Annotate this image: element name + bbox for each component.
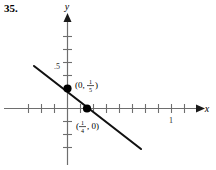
point-marker-x-intercept — [83, 104, 91, 112]
point-label-x-intercept-numerator: 1 — [81, 120, 84, 126]
exercise-figure: 35. — [0, 0, 216, 170]
point-label-x-intercept-denominator: 4 — [81, 128, 84, 134]
x-axis-arrow-icon — [196, 105, 205, 113]
point-marker-y-intercept — [63, 84, 71, 92]
point-label-x-intercept-open: ( — [76, 121, 79, 131]
point-label-y-intercept-numerator: 1 — [89, 79, 92, 85]
y-axis-arrow-icon — [64, 13, 72, 22]
point-label-x-intercept: ( 1 4 , 0) — [76, 120, 99, 134]
y-axis-label: y — [64, 1, 70, 12]
y-tick-label-half: .5 — [54, 62, 60, 71]
coordinate-plot: x y .5 1 (0, 1 5 ) ( 1 4 , 0) — [0, 0, 216, 170]
point-label-y-intercept-close: ) — [95, 80, 98, 90]
x-tick-label-one: 1 — [169, 116, 173, 125]
axes-group — [4, 13, 205, 165]
point-label-y-intercept-open: (0, — [75, 80, 85, 90]
point-label-y-intercept: (0, 1 5 ) — [75, 79, 98, 93]
point-label-x-intercept-close: , 0) — [87, 121, 99, 131]
point-label-y-intercept-denominator: 5 — [89, 87, 92, 93]
x-axis-label: x — [204, 103, 210, 114]
